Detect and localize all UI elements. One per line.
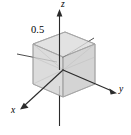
coordinate-system-diagram	[0, 0, 131, 135]
dimension-label: 0.5	[31, 24, 44, 35]
x-axis-label: x	[11, 105, 15, 115]
z-axis-arrow-icon	[57, 9, 63, 17]
y-axis-label: y	[119, 84, 123, 94]
x-axis-arrow-icon	[20, 103, 29, 110]
y-axis-arrow-icon	[109, 89, 117, 95]
figure-container: z y x 0.5	[0, 0, 131, 135]
z-axis-label: z	[61, 0, 65, 9]
origin-point	[62, 69, 64, 71]
cube	[33, 32, 95, 97]
